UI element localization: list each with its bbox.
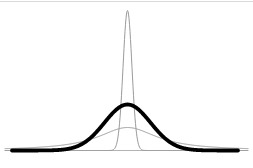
figure-container (0, 0, 253, 168)
wide-flat-curve (5, 128, 248, 149)
distribution-curves-chart (0, 0, 253, 168)
narrow-peaked-curve (5, 11, 248, 151)
